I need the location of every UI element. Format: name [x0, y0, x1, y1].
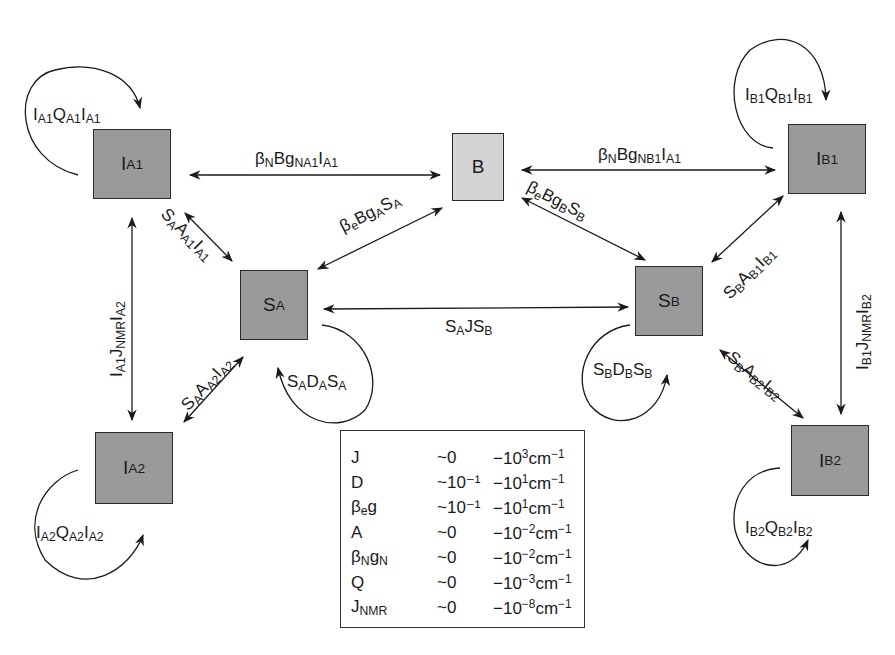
- legend-high: −10−2cm−1: [493, 545, 572, 570]
- label-B-IB1: βNBgNB1IA1: [598, 146, 681, 165]
- legend-term: D: [351, 470, 437, 495]
- node-subscript: A2: [128, 461, 145, 476]
- label-loop-SB: SBDBSB: [593, 361, 652, 380]
- label-IA1-B: βNBgNA1IA1: [255, 150, 338, 169]
- label-loop-IB2: IB2QB2IB2: [745, 519, 813, 538]
- legend-term: Q: [351, 570, 437, 595]
- label-loop-IB1: IB1QB1IB1: [745, 86, 813, 105]
- legend-table: J~0−103cm−1D~10⁻¹−101cm−1βeg~10⁻¹−101cm−…: [351, 445, 572, 620]
- legend-rows: J~0−103cm−1D~10⁻¹−101cm−1βeg~10⁻¹−101cm−…: [351, 445, 572, 620]
- legend-low: ~0: [437, 520, 493, 545]
- node-SA: SA: [240, 270, 308, 340]
- legend-term: JNMR: [351, 595, 437, 620]
- label-loop-SA: SADASA: [287, 373, 346, 392]
- edge-SA-SB: [324, 307, 628, 309]
- node-label: B: [472, 156, 485, 178]
- legend-row: D~10⁻¹−101cm−1: [351, 470, 572, 495]
- node-IA1: IA1: [93, 129, 171, 199]
- node-subscript: B2: [824, 453, 841, 468]
- node-IB2: IB2: [791, 425, 869, 496]
- legend-low: ~10⁻¹: [437, 495, 493, 520]
- legend-term: βNgN: [351, 545, 437, 570]
- legend-row: A~0−10−2cm−1: [351, 520, 572, 545]
- label-loop-IA2: IA2QA2IA2: [36, 524, 104, 543]
- legend-term: J: [351, 445, 437, 470]
- label-IB1-IB2: IB1JNMRIB2: [854, 294, 873, 370]
- legend-high: −10−3cm−1: [493, 570, 572, 595]
- node-label: S: [263, 294, 276, 316]
- legend-low: ~0: [437, 595, 493, 620]
- legend-high: −103cm−1: [493, 445, 572, 470]
- legend-high: −10−8cm−1: [493, 595, 572, 620]
- legend-row: JNMR~0−10−8cm−1: [351, 595, 572, 620]
- node-SB: SB: [635, 266, 703, 336]
- label-loop-IA1: IA1QA1IA1: [33, 106, 101, 125]
- node-subscript: A1: [126, 157, 143, 172]
- legend-low: ~0: [437, 545, 493, 570]
- label-SA-SB: SAJSB: [445, 318, 493, 337]
- legend-term: A: [351, 520, 437, 545]
- node-IA2: IA2: [95, 432, 173, 504]
- node-subscript: B: [671, 294, 680, 309]
- node-subscript: B1: [821, 152, 838, 167]
- node-IB1: IB1: [788, 124, 866, 194]
- node-B: B: [452, 133, 504, 201]
- legend-high: −101cm−1: [493, 495, 572, 520]
- legend-high: −101cm−1: [493, 470, 572, 495]
- legend-row: βNgN~0−10−2cm−1: [351, 545, 572, 570]
- node-label: S: [658, 290, 671, 312]
- legend-row: J~0−103cm−1: [351, 445, 572, 470]
- legend-row: Q~0−10−3cm−1: [351, 570, 572, 595]
- legend-low: ~10⁻¹: [437, 470, 493, 495]
- energy-scale-legend: J~0−103cm−1D~10⁻¹−101cm−1βeg~10⁻¹−101cm−…: [340, 430, 585, 628]
- label-IA1-IA2: IA1JNMRIA2: [108, 301, 127, 377]
- legend-low: ~0: [437, 445, 493, 470]
- legend-low: ~0: [437, 570, 493, 595]
- legend-high: −10−2cm−1: [493, 520, 572, 545]
- legend-term: βeg: [351, 495, 437, 520]
- legend-row: βeg~10⁻¹−101cm−1: [351, 495, 572, 520]
- node-subscript: A: [276, 298, 285, 313]
